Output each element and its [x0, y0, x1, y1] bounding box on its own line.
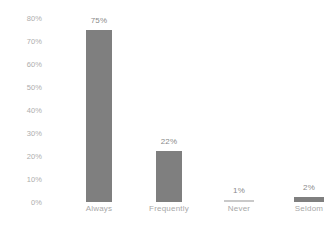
plot-area: 75% 22% 1% 2%	[50, 18, 333, 202]
x-category-label-frequently: Frequently	[134, 204, 204, 213]
bar-value-label: 2%	[303, 183, 315, 192]
bar-group-frequently: 22%	[134, 18, 204, 202]
bar-always[interactable]	[86, 30, 112, 203]
bar-frequently[interactable]	[156, 151, 182, 202]
bar-group-always: 75%	[64, 18, 134, 202]
x-category-label-never: Never	[204, 204, 274, 213]
bar-group-seldom: 2%	[274, 18, 333, 202]
y-axis: 80% 70% 60% 50% 40% 30% 20% 10% 0%	[0, 0, 50, 230]
x-category-label-seldom: Seldom	[274, 204, 333, 213]
y-tick-label: 80%	[27, 14, 42, 23]
bar-value-label: 75%	[91, 16, 108, 25]
y-tick-label: 70%	[27, 37, 42, 46]
bar-value-label: 1%	[233, 186, 245, 195]
y-tick-label: 30%	[27, 129, 42, 138]
y-tick-label: 0%	[31, 198, 42, 207]
y-tick-label: 50%	[27, 83, 42, 92]
bar-value-label: 22%	[161, 137, 178, 146]
bar-never[interactable]	[224, 200, 254, 202]
bar-group-never: 1%	[204, 18, 274, 202]
y-tick-label: 10%	[27, 175, 42, 184]
y-tick-label: 40%	[27, 106, 42, 115]
x-axis: Always Frequently Never Seldom	[50, 204, 333, 230]
bar-seldom[interactable]	[294, 197, 324, 202]
y-tick-label: 20%	[27, 152, 42, 161]
y-tick-label: 60%	[27, 60, 42, 69]
bar-chart: 80% 70% 60% 50% 40% 30% 20% 10% 0% 75% 2…	[0, 0, 333, 230]
x-category-label-always: Always	[64, 204, 134, 213]
